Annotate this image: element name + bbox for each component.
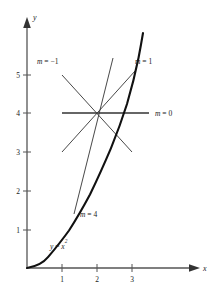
slope-lines-group — [62, 58, 149, 214]
y-tick-label-3: 3 — [16, 148, 20, 157]
x-axis-label: x — [202, 264, 207, 273]
slope-label-negative-one: m = −1 — [37, 57, 59, 66]
y-tick-label-1: 1 — [16, 226, 20, 235]
y-tick-label-2: 2 — [16, 187, 20, 196]
slope-label-four-value: = 4 — [85, 210, 97, 219]
slope-label-one-value: = 1 — [140, 57, 152, 66]
curve-equation-label: y = x2 — [49, 238, 68, 251]
x-tick-label-3: 3 — [130, 275, 134, 284]
y-axis-label: y — [32, 13, 37, 22]
slope-label-zero: m = 0 — [155, 109, 172, 118]
y-tick-label-5: 5 — [16, 71, 20, 80]
slope-line-four-tangent — [74, 58, 113, 214]
parabola-curve — [27, 33, 143, 268]
curve-equation-equals: = — [53, 242, 61, 251]
slope-label-negative-one-value: = −1 — [42, 57, 58, 66]
curve-equation-exponent: 2 — [65, 238, 68, 244]
parabola-tangent-figure: y x 1 2 3 1 2 3 4 5 — [0, 0, 210, 289]
x-tick-label-1: 1 — [60, 275, 64, 284]
y-ticks-group: 1 2 3 4 5 — [16, 71, 31, 235]
x-tick-label-2: 2 — [95, 275, 99, 284]
slope-label-zero-value: = 0 — [160, 109, 172, 118]
plot-canvas: y x 1 2 3 1 2 3 4 5 — [0, 0, 210, 289]
slope-label-one: m = 1 — [135, 57, 152, 66]
y-axis-arrowhead — [23, 17, 31, 28]
slope-label-four: m = 4 — [80, 210, 97, 219]
x-axis-arrowhead — [189, 264, 200, 272]
x-ticks-group: 1 2 3 — [60, 264, 134, 284]
y-tick-label-4: 4 — [16, 109, 20, 118]
